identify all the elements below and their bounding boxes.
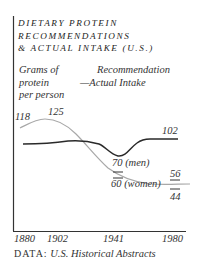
x-tick-1980: 1980 bbox=[162, 233, 183, 244]
x-tick-1902: 1902 bbox=[47, 233, 68, 244]
annotation-60-women: 60 (women) bbox=[111, 178, 161, 189]
x-tick-1880: 1880 bbox=[14, 233, 35, 244]
annotation-102: 102 bbox=[162, 125, 178, 136]
actual-intake-line bbox=[23, 139, 178, 156]
annotation-70-men: 70 (men) bbox=[112, 157, 150, 168]
source-key: DATA: bbox=[14, 248, 48, 259]
x-tick-1941: 1941 bbox=[103, 233, 124, 244]
source-value: U.S. Historical Abstracts bbox=[50, 248, 155, 259]
annotation-125: 125 bbox=[48, 106, 64, 117]
data-source: DATA: U.S. Historical Abstracts bbox=[14, 248, 156, 259]
annotation-118: 118 bbox=[15, 111, 30, 122]
annotation-56: 56 bbox=[170, 168, 181, 179]
annotation-44: 44 bbox=[170, 191, 181, 202]
